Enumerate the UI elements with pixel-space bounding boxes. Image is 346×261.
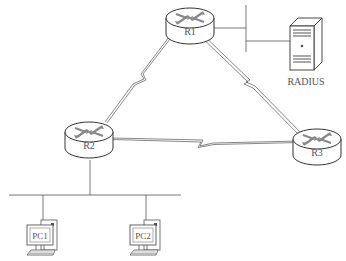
link-r1-r3 [196, 30, 302, 136]
router-r1[interactable]: R1 [166, 8, 214, 44]
pc2-label: PC2 [135, 231, 151, 241]
router-r3-label: R3 [311, 147, 323, 158]
router-r3[interactable]: R3 [293, 129, 341, 165]
radius-server[interactable]: RADIUS [287, 18, 324, 87]
link-r1-r2 [105, 29, 177, 123]
radius-label: RADIUS [287, 76, 324, 87]
pc1-label: PC1 [32, 231, 48, 241]
router-r1-label: R1 [184, 26, 196, 37]
host-pc1[interactable]: PC1 [27, 220, 57, 255]
router-r2-label: R2 [83, 140, 95, 151]
host-pc2[interactable]: PC2 [130, 220, 160, 255]
router-r2[interactable]: R2 [65, 122, 113, 158]
link-r2-r3 [112, 138, 300, 148]
lan-segment [9, 160, 181, 222]
link-r1-radius [214, 5, 290, 52]
